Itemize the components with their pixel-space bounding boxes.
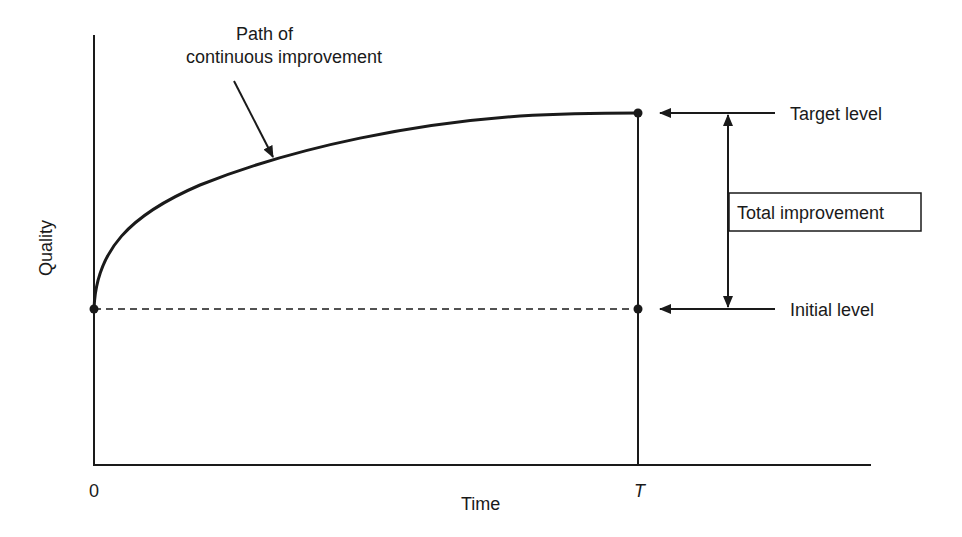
initial-level-label: Initial level — [790, 300, 874, 320]
y-axis-label: Quality — [36, 218, 56, 278]
initial-point-end — [634, 305, 643, 314]
diagram-canvas — [0, 0, 962, 537]
total-improvement-label: Total improvement — [737, 203, 884, 223]
improvement-curve — [94, 113, 638, 309]
target-level-label: Target level — [790, 104, 882, 124]
curve-label-line1: Path of — [236, 24, 293, 44]
curve-pointer-arrow — [234, 81, 273, 157]
t-tick: T — [634, 481, 645, 501]
initial-point-start — [90, 305, 99, 314]
x-axis-label: Time — [461, 494, 500, 514]
curve-label-line2: continuous improvement — [186, 47, 382, 67]
origin-tick: 0 — [89, 481, 99, 501]
target-point — [634, 109, 643, 118]
